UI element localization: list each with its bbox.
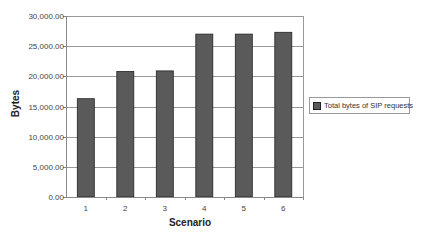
bar <box>196 34 213 197</box>
y-tick-label: 25,000.00 <box>28 42 64 51</box>
y-tick-label: 10,000.00 <box>28 133 64 142</box>
y-tick-label: 20,000.00 <box>28 72 64 81</box>
bar <box>77 99 94 197</box>
x-tick-label: 1 <box>76 204 96 213</box>
y-axis-label: Bytes <box>10 87 21 121</box>
gridlines <box>66 17 303 168</box>
x-tick-label: 2 <box>115 204 135 213</box>
bar <box>275 32 292 197</box>
legend-swatch-icon <box>313 102 321 110</box>
y-tick-label: 5,000.00 <box>33 163 64 172</box>
bar-chart <box>0 0 427 238</box>
x-axis-label: Scenario <box>150 217 230 228</box>
bar <box>235 34 252 197</box>
y-tick-label: 0.00 <box>48 193 64 202</box>
x-tick-label: 3 <box>155 204 175 213</box>
bar <box>156 71 173 197</box>
bar <box>117 72 134 198</box>
x-tick-label: 4 <box>194 204 214 213</box>
legend: Total bytes of SIP requests <box>309 97 410 114</box>
y-tick-label: 15,000.00 <box>28 103 64 112</box>
legend-label: Total bytes of SIP requests <box>324 101 413 110</box>
x-tick-label: 5 <box>234 204 254 213</box>
x-tick-label: 6 <box>273 204 293 213</box>
y-tick-label: 30,000.00 <box>28 12 64 21</box>
bars <box>77 32 291 197</box>
